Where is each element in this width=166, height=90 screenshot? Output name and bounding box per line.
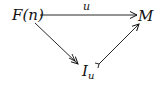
arrow-epi [35,23,78,64]
node-source: F(n) [12,8,44,23]
node-image: Iu [82,64,94,81]
node-image-sub: u [88,70,94,81]
arrow-mono [95,24,139,68]
node-target: M [138,9,153,24]
edge-label-u: u [83,1,90,12]
